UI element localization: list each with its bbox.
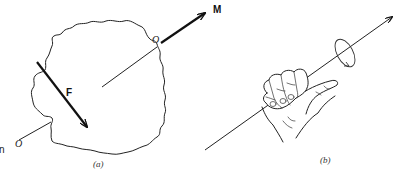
force-label: F <box>66 87 72 98</box>
caption-a: (a) <box>93 159 104 169</box>
caption-b: (b) <box>320 155 331 165</box>
force-vector-f <box>37 62 87 127</box>
panel-b: (b) <box>205 17 392 165</box>
rotation-circle-icon <box>331 36 359 70</box>
point-o-top-label: O <box>152 34 159 45</box>
edge-label-n: n <box>0 144 5 155</box>
moment-label: M <box>213 4 221 15</box>
moment-axis-line <box>102 47 157 87</box>
rigid-body-outline <box>31 20 165 154</box>
right-hand-icon <box>262 69 338 142</box>
lower-axis-line <box>19 122 51 140</box>
moment-vector-m <box>161 13 205 43</box>
moment-diagram: M F O O n (a) <box>0 0 399 170</box>
panel-a: M F O O n (a) <box>0 4 221 169</box>
point-o-bottom-label: O <box>15 138 22 149</box>
